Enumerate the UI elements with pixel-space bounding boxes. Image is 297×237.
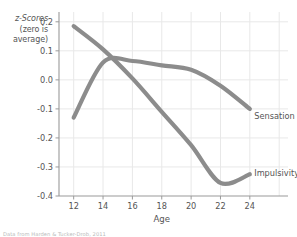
y-tick-label: 0.0 <box>29 76 53 84</box>
x-tick-label: 20 <box>181 202 201 210</box>
y-axis-title-line-3: average) <box>2 35 48 46</box>
x-tick-label: 22 <box>210 202 230 210</box>
x-tick-label: 16 <box>122 202 142 210</box>
x-tick-label: 12 <box>64 202 84 210</box>
x-tick-label: 24 <box>240 202 260 210</box>
y-tick-label: -0.1 <box>29 105 53 113</box>
chart-figure: z-Scores (zero is average) 0.20.10.0-0.1… <box>0 0 297 237</box>
y-tick-label: -0.3 <box>29 163 53 171</box>
series-label-sensation-seeking: Sensation seeking <box>254 111 297 121</box>
x-axis-title: Age <box>132 214 192 224</box>
y-tick-label: 0.2 <box>29 18 53 26</box>
y-tick-label: -0.4 <box>29 192 53 200</box>
y-tick-label: -0.2 <box>29 134 53 142</box>
y-tick-label: 0.1 <box>29 47 53 55</box>
source-note: Data from Harden & Tucker-Drob, 2011 <box>3 231 106 237</box>
x-tick-label: 14 <box>93 202 113 210</box>
series-label-impulsivity: Impulsivity <box>254 168 297 178</box>
x-tick-label: 18 <box>152 202 172 210</box>
